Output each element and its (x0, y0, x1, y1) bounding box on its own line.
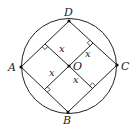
point-c-dot (115, 63, 118, 66)
point-d-dot (67, 19, 70, 22)
label-d: D (63, 6, 73, 19)
inscribed-square-diagram: D A C B O x x x x (0, 0, 137, 125)
label-b: B (62, 114, 71, 125)
label-x-o-ab: x (49, 67, 55, 78)
label-x-o-ad: x (59, 43, 65, 54)
label-c: C (121, 60, 130, 73)
point-a-dot (19, 65, 22, 68)
label-x-o-cb: x (73, 74, 79, 85)
point-o-dot (67, 64, 70, 67)
perpendicular-o-ad (45, 44, 69, 66)
label-o: O (73, 60, 82, 73)
label-x-o-dc: x (85, 48, 91, 59)
label-a: A (7, 61, 16, 74)
